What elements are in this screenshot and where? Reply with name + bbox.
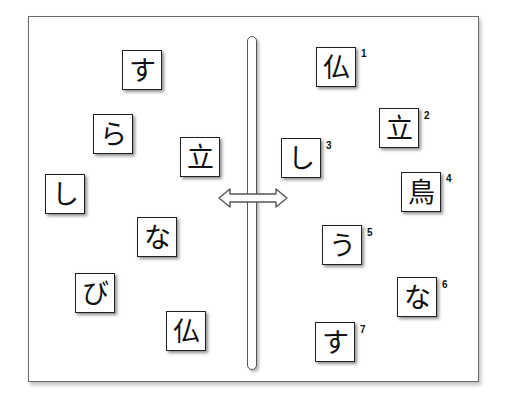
card-number-label: 6 xyxy=(442,279,448,290)
right-card[interactable]: 鳥 xyxy=(401,172,441,212)
card-number-label: 5 xyxy=(367,227,373,238)
left-card[interactable]: 立 xyxy=(180,137,220,177)
left-card[interactable]: な xyxy=(137,217,177,257)
right-card[interactable]: し xyxy=(281,138,321,178)
left-card[interactable]: び xyxy=(75,273,115,313)
divider-overlap-mask xyxy=(249,195,256,201)
left-card[interactable]: 仏 xyxy=(166,311,206,351)
right-card[interactable]: う xyxy=(322,225,362,265)
card-number-label: 4 xyxy=(446,173,452,184)
left-card[interactable]: す xyxy=(122,50,162,90)
right-card[interactable]: 立 xyxy=(379,108,419,148)
card-number-label: 2 xyxy=(424,110,430,121)
card-number-label: 1 xyxy=(361,48,367,59)
right-card[interactable]: 仏 xyxy=(316,47,356,87)
right-card[interactable]: な xyxy=(397,277,437,317)
left-card[interactable]: し xyxy=(45,174,85,214)
left-card[interactable]: ら xyxy=(93,114,133,154)
card-number-label: 7 xyxy=(360,324,366,335)
right-card[interactable]: す xyxy=(315,322,355,362)
card-number-label: 3 xyxy=(326,140,332,151)
